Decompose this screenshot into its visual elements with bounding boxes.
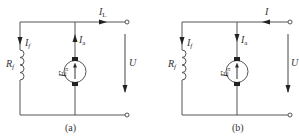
field-resistance-label: Rf	[5, 58, 15, 71]
brush-top	[234, 57, 240, 61]
circuit-figure: IL If Rf Ia Ea U (a) I If Rf Ia Ea U (b)	[0, 0, 299, 139]
field-current-label: If	[186, 37, 193, 50]
line-current-label: I	[264, 6, 269, 17]
armature-current-label: Ia	[240, 34, 248, 47]
emf-label: Ea	[57, 67, 70, 78]
field-current-arrow-icon	[18, 37, 23, 45]
terminal-bottom[interactable]	[125, 113, 129, 117]
armature-current-label: Ia	[78, 34, 86, 47]
line-current-arrow-icon	[99, 20, 107, 25]
line-current-label: IL	[98, 6, 107, 19]
field-coil	[20, 50, 24, 80]
field-current-label: If	[24, 37, 31, 50]
field-resistance-label: Rf	[167, 58, 177, 71]
caption-a: (a)	[65, 122, 76, 134]
terminal-top[interactable]	[125, 20, 129, 24]
brush-bottom	[234, 82, 240, 86]
caption-b: (b)	[232, 122, 244, 134]
field-coil	[182, 50, 186, 80]
field-current-arrow-icon	[180, 37, 185, 45]
armature-current-arrow-icon	[235, 34, 240, 42]
terminal-bottom[interactable]	[288, 113, 292, 117]
brush-bottom	[72, 82, 78, 86]
voltage-label: U	[291, 57, 299, 68]
armature-current-arrow-icon	[73, 34, 78, 42]
line-current-arrow-icon	[262, 20, 270, 25]
brush-top	[72, 57, 78, 61]
voltage-label: U	[129, 57, 137, 68]
terminal-top[interactable]	[288, 20, 292, 24]
emf-label: Ea	[219, 67, 232, 78]
